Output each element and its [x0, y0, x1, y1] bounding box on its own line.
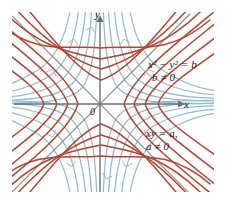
asymptote-negative-slope: [12, 16, 190, 194]
blue-curve: [0, 12, 91, 101]
y-axis-label: y: [95, 8, 100, 20]
blue-family-equation: xy = a,: [146, 127, 178, 140]
red-condition-text: b ≠ 0: [152, 71, 175, 83]
right-angle-marker: [68, 39, 78, 45]
origin-label: 0: [90, 106, 95, 117]
blue-curve: [0, 12, 85, 98]
red-equation-text: x² − y² = b: [148, 58, 197, 70]
blue-family-condition: a ≠ 0: [146, 140, 169, 153]
blue-curve: [130, 114, 214, 192]
hyperbola-orthogonal-trajectories-figure: y x 0 x² − y² = b b ≠ 0 xy = a, a ≠ 0: [0, 0, 226, 200]
plot-canvas: [0, 0, 226, 200]
x-axis-label: x: [184, 98, 189, 110]
blue-condition-text: a ≠ 0: [146, 140, 169, 152]
red-family-equation: x² − y² = b: [148, 58, 197, 71]
blue-equation-text: xy = a,: [146, 127, 178, 139]
right-angle-marker: [66, 161, 76, 167]
blue-curve: [0, 114, 70, 192]
red-family-condition: b ≠ 0: [152, 71, 175, 84]
blue-curve: [0, 100, 97, 192]
